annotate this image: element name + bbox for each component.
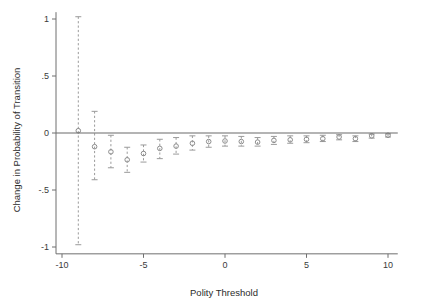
errorbar-group [75, 17, 391, 245]
x-axis-ticks: -10-50510 [55, 254, 393, 270]
y-tick-label: 1 [44, 14, 49, 24]
x-tick-label: 0 [222, 260, 227, 270]
y-axis-title: Change in Probability of Transition [11, 68, 22, 213]
x-tick-label: 5 [304, 260, 309, 270]
y-tick-label: -.5 [38, 185, 49, 195]
scatter-plot-canvas: 1.50-.5-1 -10-50510 Polity Threshold Cha… [0, 0, 421, 306]
y-axis-ticks: 1.50-.5-1 [38, 14, 56, 252]
x-tick-label: -10 [55, 260, 68, 270]
x-axis-title: Polity Threshold [190, 287, 258, 298]
x-tick-label: 10 [383, 260, 393, 270]
y-tick-label: .5 [41, 71, 49, 81]
y-tick-label: 0 [44, 128, 49, 138]
y-tick-label: -1 [41, 242, 49, 252]
x-tick-label: -5 [139, 260, 147, 270]
chart-figure: 1.50-.5-1 -10-50510 Polity Threshold Cha… [0, 0, 421, 306]
